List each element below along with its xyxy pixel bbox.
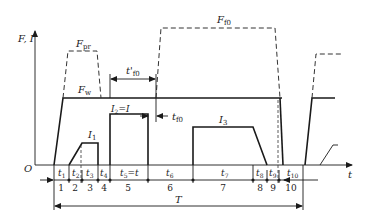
i2-current bbox=[110, 114, 148, 165]
svg-text:10: 10 bbox=[285, 183, 297, 193]
svg-text:t9: t9 bbox=[269, 168, 277, 179]
svg-text:t4: t4 bbox=[100, 168, 108, 179]
next-cycle-dashed bbox=[312, 54, 343, 98]
fw-drop bbox=[280, 98, 283, 165]
ff0-curve bbox=[156, 28, 280, 98]
svg-text:t6: t6 bbox=[166, 168, 174, 179]
t-f0-label: tf0 bbox=[172, 111, 183, 124]
fw-next-cycle bbox=[305, 98, 335, 165]
t-total-label: T bbox=[175, 194, 183, 205]
i1-current bbox=[69, 143, 98, 165]
fw-label: Fw bbox=[77, 84, 91, 97]
interval-numbers: 1 2 3 4 5 6 7 8 9 10 bbox=[58, 183, 297, 193]
svg-text:1: 1 bbox=[58, 183, 64, 193]
ff0-label: Ff0 bbox=[216, 14, 231, 27]
y-axis-label: F, I bbox=[17, 33, 35, 44]
svg-text:6: 6 bbox=[167, 183, 173, 193]
svg-text:8: 8 bbox=[257, 183, 263, 193]
i2-label: I2=I bbox=[110, 104, 130, 115]
origin-label: O bbox=[24, 163, 32, 174]
next-cycle-current bbox=[320, 145, 338, 165]
svg-text:t8: t8 bbox=[256, 168, 264, 179]
svg-text:t10: t10 bbox=[287, 168, 298, 179]
welding-cycle-diagram: F, I t O bbox=[0, 0, 370, 224]
svg-text:2: 2 bbox=[72, 183, 78, 193]
interval-time-labels: t1 t2 t3 t4 t5=t t6 t7 t8 t9 t10 bbox=[58, 168, 298, 179]
svg-text:7: 7 bbox=[220, 183, 226, 193]
t-prime-f0-label: t'f0 bbox=[126, 65, 140, 78]
i3-current bbox=[193, 127, 267, 165]
svg-text:3: 3 bbox=[87, 183, 93, 193]
svg-text:t2: t2 bbox=[72, 168, 80, 179]
fpr-label: Fpr bbox=[75, 38, 91, 51]
x-axis-label: t bbox=[348, 169, 353, 180]
i1-label: I1 bbox=[87, 129, 96, 142]
svg-text:9: 9 bbox=[270, 183, 276, 193]
svg-text:t5=t: t5=t bbox=[120, 168, 139, 179]
svg-text:t3: t3 bbox=[86, 168, 94, 179]
svg-text:4: 4 bbox=[101, 183, 107, 193]
svg-text:5: 5 bbox=[125, 183, 131, 193]
svg-text:t7: t7 bbox=[221, 168, 229, 179]
i3-label: I3 bbox=[218, 114, 227, 127]
svg-text:t1: t1 bbox=[58, 168, 65, 179]
